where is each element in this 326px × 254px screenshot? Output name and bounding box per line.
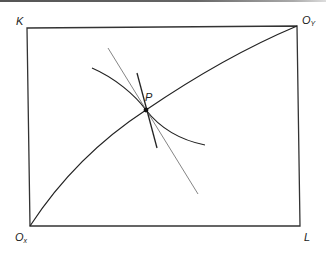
label-L: L [304,232,310,243]
box-frame [27,26,300,226]
label-K: K [16,16,23,27]
edgeworth-box-diagram [0,0,326,254]
contract-curve [30,26,297,226]
shallow-tangent-line [108,48,198,194]
label-O-x: Ox [15,232,27,244]
point-P-marker [144,108,149,113]
label-O-x-main: O [15,231,24,243]
label-O-Y-sub: Y [311,20,316,27]
label-O-Y-main: O [302,14,311,26]
label-O-Y: OY [302,15,315,27]
label-P: P [145,92,152,103]
label-O-x-sub: x [24,237,28,244]
isoquant-curve [92,68,205,145]
